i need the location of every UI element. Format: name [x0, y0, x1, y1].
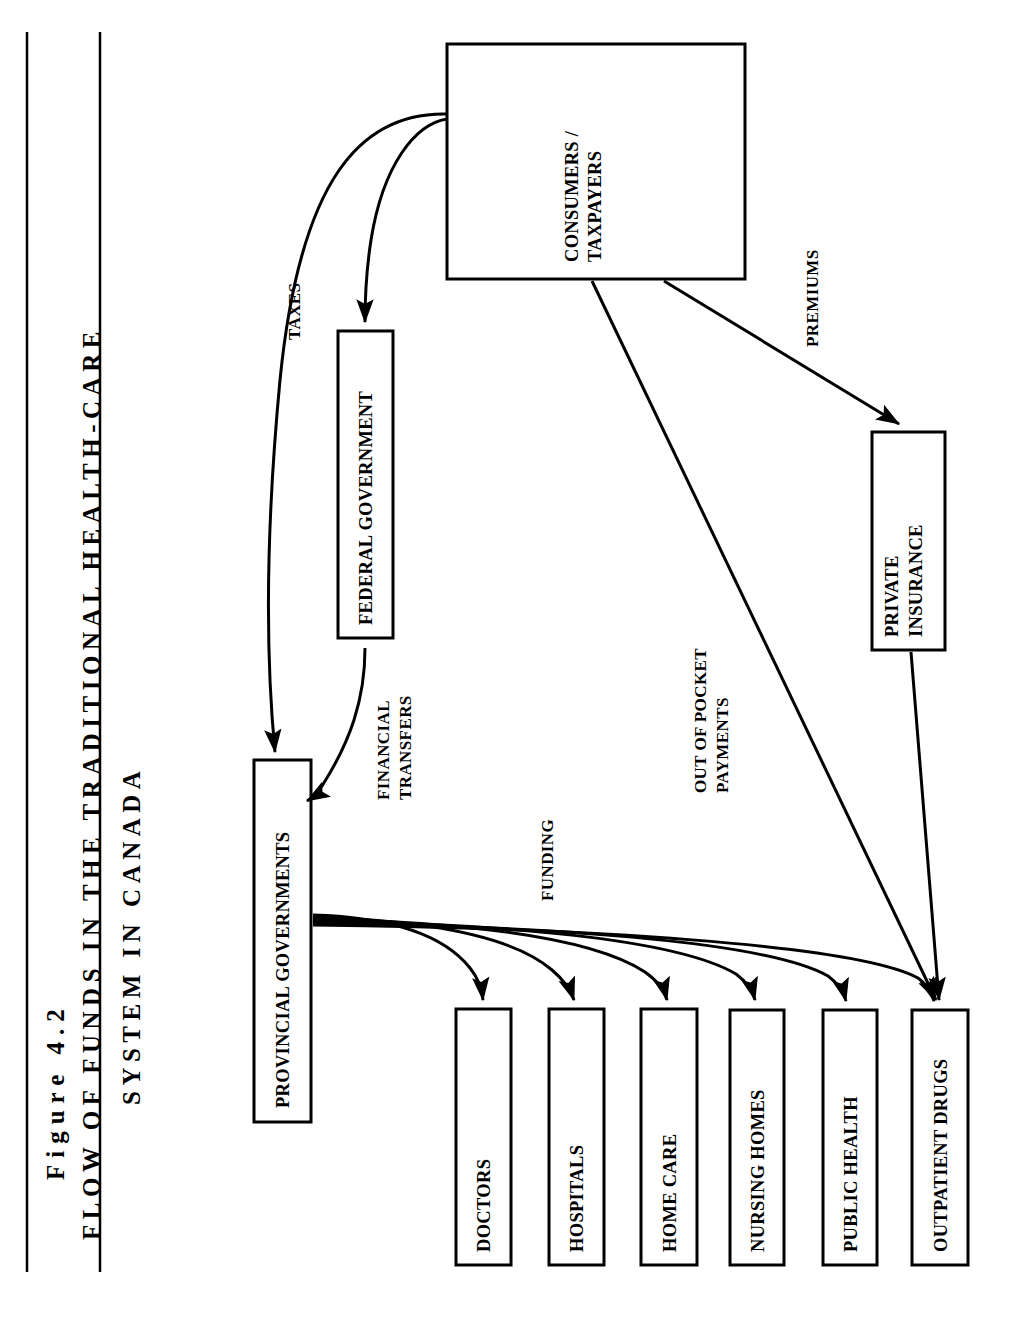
node-insurance[interactable]: PRIVATE INSURANCE [872, 432, 945, 650]
node-nursing[interactable]: NURSING HOMES [730, 1010, 784, 1265]
svg-text:TRANSFERS: TRANSFERS [396, 695, 415, 800]
node-consumers[interactable]: CONSUMERS / TAXPAYERS [447, 44, 745, 279]
node-federal[interactable]: FEDERAL GOVERNMENT [338, 331, 393, 638]
edge-funding-homecare [313, 919, 667, 1000]
label-out-of-pocket-line2: PAYMENTS [713, 697, 732, 793]
label-out-of-pocket-line1: OUT OF POCKET [691, 648, 710, 793]
edge-premiums [664, 281, 899, 424]
edge-insurance-drugs [911, 652, 939, 1000]
label-funding: FUNDING [538, 819, 557, 901]
node-drugs[interactable]: OUTPATIENT DRUGS [912, 1010, 968, 1265]
flow-of-funds-diagram: Figure 4.2 FLOW OF FUNDS IN THE TRADITIO… [0, 0, 1017, 1337]
node-doctors-label: DOCTORS [474, 1159, 494, 1252]
svg-text:PREMIUMS: PREMIUMS [803, 249, 822, 347]
svg-text:HOSPITALS: HOSPITALS [567, 1145, 587, 1252]
node-doctors[interactable]: DOCTORS [456, 1009, 511, 1265]
svg-text:SYSTEM IN CANADA: SYSTEM IN CANADA [118, 766, 145, 1105]
figure-page: Figure 4.2 FLOW OF FUNDS IN THE TRADITIO… [0, 0, 1017, 1337]
svg-text:DOCTORS: DOCTORS [474, 1159, 494, 1252]
svg-text:CONSUMERS /: CONSUMERS / [562, 130, 582, 262]
svg-text:FUNDING: FUNDING [538, 819, 557, 901]
page-subtitle: SYSTEM IN CANADA [118, 766, 145, 1105]
label-financial-transfers-line2: TRANSFERS [396, 695, 415, 800]
svg-text:Figure 4.2: Figure 4.2 [42, 1002, 69, 1180]
svg-text:PRIVATE: PRIVATE [882, 555, 902, 637]
edge-funding-nursing [313, 921, 755, 1000]
node-federal-label: FEDERAL GOVERNMENT [356, 391, 376, 625]
label-premiums: PREMIUMS [803, 249, 822, 347]
node-insurance-label2: INSURANCE [906, 524, 926, 637]
node-homecare[interactable]: HOME CARE [641, 1009, 697, 1265]
page-title: FLOW OF FUNDS IN THE TRADITIONAL HEALTH-… [78, 326, 105, 1240]
node-consumers-label2: TAXPAYERS [585, 151, 605, 262]
svg-text:OUTPATIENT DRUGS: OUTPATIENT DRUGS [931, 1059, 951, 1252]
node-provincial-label: PROVINCIAL GOVERNMENTS [273, 832, 293, 1108]
node-publichealth[interactable]: PUBLIC HEALTH [823, 1010, 877, 1265]
label-taxes: TAXES [285, 283, 304, 340]
node-drugs-label: OUTPATIENT DRUGS [931, 1059, 951, 1252]
node-hospitals[interactable]: HOSPITALS [549, 1009, 604, 1265]
node-insurance-label: PRIVATE [882, 555, 902, 637]
figure-number: Figure 4.2 [42, 1002, 69, 1180]
node-publichealth-label: PUBLIC HEALTH [841, 1096, 861, 1252]
svg-text:NURSING HOMES: NURSING HOMES [748, 1089, 768, 1252]
svg-text:HOME CARE: HOME CARE [660, 1134, 680, 1252]
svg-text:INSURANCE: INSURANCE [906, 524, 926, 637]
node-provincial[interactable]: PROVINCIAL GOVERNMENTS [254, 760, 311, 1122]
svg-text:PROVINCIAL GOVERNMENTS: PROVINCIAL GOVERNMENTS [273, 832, 293, 1108]
node-consumers-label: CONSUMERS / [562, 130, 582, 262]
svg-text:OUT OF POCKET: OUT OF POCKET [691, 648, 710, 793]
node-hospitals-label: HOSPITALS [567, 1145, 587, 1252]
svg-text:PUBLIC HEALTH: PUBLIC HEALTH [841, 1096, 861, 1252]
label-financial-transfers-line1: FINANCIAL [374, 700, 393, 800]
edge-financial-transfers [307, 648, 365, 801]
svg-text:PAYMENTS: PAYMENTS [713, 697, 732, 793]
svg-text:FLOW OF FUNDS IN THE TRADITION: FLOW OF FUNDS IN THE TRADITIONAL HEALTH-… [78, 326, 105, 1240]
svg-text:FINANCIAL: FINANCIAL [374, 700, 393, 800]
node-homecare-label: HOME CARE [660, 1134, 680, 1252]
svg-text:TAXES: TAXES [285, 283, 304, 340]
edge-taxes-federal [365, 119, 447, 322]
svg-text:FEDERAL GOVERNMENT: FEDERAL GOVERNMENT [356, 391, 376, 625]
node-nursing-label: NURSING HOMES [748, 1089, 768, 1252]
svg-text:TAXPAYERS: TAXPAYERS [585, 151, 605, 262]
